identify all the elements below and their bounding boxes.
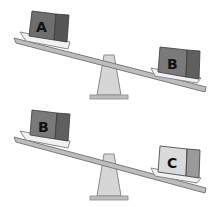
block-label: B (167, 56, 178, 72)
balance-diagram: A B B C (0, 0, 218, 207)
block-label: B (38, 119, 49, 135)
scale-top: A B (14, 11, 206, 99)
scale-bottom: B C (14, 110, 206, 200)
block-a: A (29, 11, 69, 42)
block-b: B (30, 110, 70, 141)
block-label: A (36, 19, 47, 35)
block-c: C (158, 146, 200, 178)
block-label: C (167, 155, 177, 171)
